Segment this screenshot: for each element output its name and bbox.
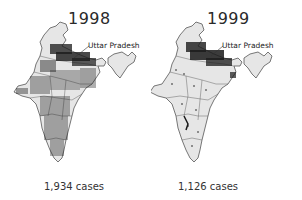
- callout-line: [0, 0, 151, 200]
- uttar-pradesh-label: Uttar Pradesh: [88, 41, 140, 50]
- uttar-pradesh-label: Uttar Pradesh: [222, 41, 274, 50]
- case-count: 1,126 cases: [178, 181, 238, 192]
- panel-1999: 1999 Uttar Pradesh 1,126 cases: [151, 0, 302, 200]
- panel-1998: 1998 Uttar Pradesh 1,934 cases: [0, 0, 151, 200]
- callout-line: [151, 0, 302, 200]
- case-count: 1,934 cases: [44, 181, 104, 192]
